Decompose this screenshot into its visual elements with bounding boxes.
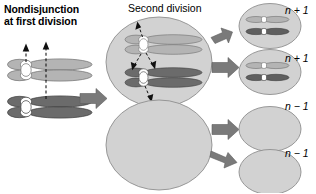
figure-title-line-2: at first division	[4, 15, 77, 27]
arrow-upper-to-gamete-1	[211, 28, 233, 44]
second-division-label: Second division	[128, 2, 202, 14]
middle-stage-group	[106, 17, 239, 190]
gamete-4-ploidy-label: n − 1	[285, 147, 309, 159]
upper-secondary-cell	[106, 17, 212, 107]
migration-arrowheads	[23, 42, 50, 52]
centromere	[20, 97, 31, 117]
lower-secondary-cell	[106, 100, 212, 190]
gamete-1-light-chromosome	[246, 16, 289, 22]
centromere	[139, 69, 149, 86]
gamete-3	[239, 107, 301, 152]
gamete-1-dark-chromosome	[246, 28, 289, 34]
left-dark-chromosome-pair	[8, 96, 93, 118]
meiosis-nondisjunction-diagram	[0, 0, 316, 193]
figure-title: Nondisjunctionat first division	[4, 3, 79, 28]
gamete-1-ploidy-label: n + 1	[285, 4, 309, 16]
arrow-lower-to-gamete-3	[212, 120, 239, 140]
figure-title-line-1: Nondisjunction	[4, 3, 79, 15]
centromere	[139, 36, 149, 53]
left-stage-group	[8, 42, 108, 119]
centromere	[20, 60, 31, 80]
arrow-lower-to-gamete-4	[210, 151, 237, 168]
gamete-2-ploidy-label: n + 1	[285, 52, 309, 64]
figure-canvas: Nondisjunctionat first division Second d…	[0, 0, 316, 193]
left-light-chromosome-pair	[8, 59, 93, 81]
right-stage-group	[239, 4, 301, 194]
gamete-2-dark-chromosome	[246, 74, 289, 80]
gamete-2-light-chromosome	[246, 62, 289, 68]
gamete-3-ploidy-label: n − 1	[285, 100, 309, 112]
arrow-upper-to-gamete-2	[212, 58, 239, 78]
